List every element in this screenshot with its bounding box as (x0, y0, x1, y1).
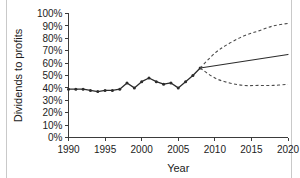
data-point-2006 (184, 80, 187, 83)
data-point-2004 (169, 81, 172, 84)
y-tick-label-60: 60% (42, 58, 62, 69)
data-point-2003 (162, 83, 165, 86)
chart-figure: 0%10%20%30%40%50%60%70%80%90%100%1990199… (0, 0, 300, 178)
data-point-1994 (96, 90, 99, 93)
data-point-1996 (111, 89, 114, 92)
x-tick-label-1995: 1995 (94, 144, 117, 155)
y-tick-label-30: 30% (42, 95, 62, 106)
dividends-to-profits-line-chart: 0%10%20%30%40%50%60%70%80%90%100%1990199… (0, 0, 300, 178)
data-point-1991 (74, 88, 77, 91)
data-point-2001 (147, 76, 150, 79)
y-tick-label-40: 40% (42, 83, 62, 94)
x-tick-label-2005: 2005 (167, 144, 190, 155)
y-axis-title: Dividends to profits (12, 28, 24, 122)
data-point-2005 (177, 86, 180, 89)
y-tick-label-90: 90% (42, 21, 62, 32)
series-central-projection (200, 54, 288, 68)
data-point-2002 (155, 80, 158, 83)
data-point-2000 (140, 80, 143, 83)
y-tick-label-70: 70% (42, 45, 62, 56)
y-tick-label-20: 20% (42, 107, 62, 118)
data-point-2007 (191, 74, 194, 77)
data-point-1998 (126, 81, 129, 84)
data-point-1997 (118, 88, 121, 91)
y-tick-label-50: 50% (42, 70, 62, 81)
data-point-1992 (82, 88, 85, 91)
x-tick-label-2000: 2000 (131, 144, 154, 155)
y-tick-label-10: 10% (42, 120, 62, 131)
y-tick-label-100: 100% (37, 8, 63, 19)
y-tick-label-0: 0% (48, 132, 63, 143)
x-tick-label-2020: 2020 (277, 144, 300, 155)
x-tick-label-2015: 2015 (240, 144, 263, 155)
data-point-1990 (67, 88, 70, 91)
x-tick-label-1990: 1990 (57, 144, 80, 155)
data-point-1993 (89, 89, 92, 92)
data-point-1999 (133, 86, 136, 89)
x-axis-title: Year (167, 162, 190, 174)
x-tick-label-2010: 2010 (204, 144, 227, 155)
data-point-1995 (104, 89, 107, 92)
y-tick-label-80: 80% (42, 33, 62, 44)
series-lower-bound-projection (200, 68, 288, 86)
